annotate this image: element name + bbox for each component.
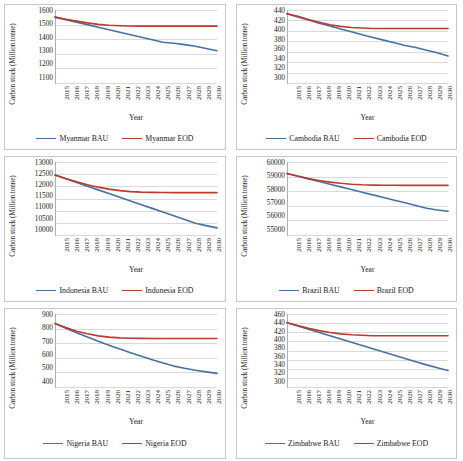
x-tick-label: 2021: [116, 85, 126, 113]
legend-label: Zimbabwe BAU: [288, 439, 340, 448]
y-tick-labels-myanmar: 160015001400130012001100: [19, 10, 53, 84]
legend-brazil: Brazil BAUBrazil EOD: [237, 286, 456, 295]
chart-frame-indonesia: Carbon stock (Million tonne)130001250012…: [4, 156, 226, 302]
x-tick-label: 2022: [126, 389, 136, 417]
legend-swatch-icon: [354, 138, 374, 140]
legend-item-zimbabwe-bau[interactable]: Zimbabwe BAU: [265, 439, 340, 448]
y-tick-label: 59000: [267, 172, 285, 179]
x-tick-label: 2027: [177, 85, 187, 113]
y-axis-label-text: Carbon stock (Million tonne): [9, 23, 17, 104]
legend-label: Myanmar EOD: [145, 134, 193, 143]
chart-panel-nigeria: Carbon stock (Million tonne)900800700600…: [0, 304, 232, 461]
legend-item-myanmar-bau[interactable]: Myanmar BAU: [36, 134, 108, 143]
y-tick-label: 500: [42, 364, 53, 371]
chart-frame-myanmar: Carbon stock (Million tonne)160015001400…: [4, 4, 226, 150]
x-tick-label: 2022: [357, 237, 367, 265]
x-tick-label: 2024: [146, 389, 156, 417]
x-tick-labels-myanmar: 2015201620172018201920202021202220232024…: [55, 85, 217, 113]
legend-item-indonesia-bau[interactable]: Indonesia BAU: [36, 286, 108, 295]
y-tick-label: 1400: [38, 33, 53, 40]
x-tick-label: 2022: [126, 85, 136, 113]
x-tick-label: 2029: [197, 85, 207, 113]
legend-label: Brazil BAU: [302, 286, 339, 295]
legend-item-zimbabwe-eod[interactable]: Zimbabwe EOD: [354, 439, 428, 448]
x-tick-label: 2015: [287, 237, 297, 265]
legend-item-nigeria-bau[interactable]: Nigeria BAU: [43, 439, 108, 448]
x-tick-labels-brazil: 2015201620172018201920202021202220232024…: [287, 237, 448, 265]
x-tick-label: 2026: [398, 389, 408, 417]
x-tick-label: 2016: [297, 389, 307, 417]
y-axis-label-text: Carbon stock (Million tonne): [9, 327, 17, 408]
y-tick-labels-indonesia: 13000125001200011500110001050010000: [19, 162, 53, 236]
legend-item-cambodia-eod[interactable]: Cambodia EOD: [354, 134, 427, 143]
legend-label: Indonesia EOD: [145, 286, 193, 295]
x-tick-label: 2019: [96, 85, 106, 113]
legend-zimbabwe: Zimbabwe BAUZimbabwe EOD: [237, 439, 456, 448]
legend-swatch-icon: [43, 443, 63, 445]
y-tick-label: 700: [42, 337, 53, 344]
chart-frame-nigeria: Carbon stock (Million tonne)900800700600…: [4, 308, 226, 459]
x-tick-label: 2022: [126, 237, 136, 265]
x-tick-label-text: 2030: [215, 86, 222, 100]
y-axis-label-myanmar: Carbon stock (Million tonne): [6, 5, 20, 123]
legend-myanmar: Myanmar BAUMyanmar EOD: [5, 134, 225, 143]
x-tick-label: 2015: [287, 389, 297, 417]
x-tick-labels-nigeria: 2015201620172018201920202021202220232024…: [55, 389, 217, 417]
x-axis-label-nigeria: Year: [55, 417, 217, 426]
legend-item-nigeria-eod[interactable]: Nigeria EOD: [122, 439, 186, 448]
legend-label: Nigeria BAU: [66, 439, 108, 448]
chart-panel-cambodia: Carbon stock (Million tonne)440420400380…: [232, 0, 463, 152]
legend-item-brazil-eod[interactable]: Brazil EOD: [354, 286, 414, 295]
x-tick-label: 2028: [418, 85, 428, 113]
x-tick-label: 2029: [428, 85, 438, 113]
x-tick-label: 2020: [337, 85, 347, 113]
x-tick-label: 2022: [357, 85, 367, 113]
x-tick-labels-zimbabwe: 2015201620172018201920202021202220232024…: [287, 389, 448, 417]
x-axis-label-cambodia: Year: [287, 113, 448, 122]
x-tick-label: 2019: [96, 237, 106, 265]
y-tick-label: 1600: [38, 7, 53, 14]
chart-panel-indonesia: Carbon stock (Million tonne)130001250012…: [0, 152, 232, 304]
x-tick-label: 2017: [75, 389, 85, 417]
legend-item-indonesia-eod[interactable]: Indonesia EOD: [122, 286, 193, 295]
series-canvas-cambodia: [287, 10, 448, 84]
x-tick-label: 2026: [166, 389, 176, 417]
chart-panel-zimbabwe: Carbon stock (Million tonne)460440420400…: [232, 304, 463, 461]
legend-label: Cambodia BAU: [289, 134, 339, 143]
legend-item-myanmar-eod[interactable]: Myanmar EOD: [122, 134, 193, 143]
x-tick-label-text: 2030: [215, 390, 222, 404]
y-tick-label: 320: [274, 369, 285, 376]
x-tick-label: 2030: [438, 85, 448, 113]
x-tick-label: 2018: [317, 237, 327, 265]
legend-label: Brazil EOD: [377, 286, 414, 295]
series-canvas-indonesia: [55, 162, 217, 236]
series-line-nigeria-eod: [55, 324, 217, 339]
x-tick-label-text: 2030: [446, 390, 453, 404]
y-axis-label-cambodia: Carbon stock (Million tonne): [238, 5, 252, 123]
chart-frame-zimbabwe: Carbon stock (Million tonne)460440420400…: [236, 308, 457, 459]
y-tick-label: 320: [274, 64, 285, 71]
x-tick-label: 2030: [438, 389, 448, 417]
y-tick-label: 55000: [267, 225, 285, 232]
legend-item-brazil-bau[interactable]: Brazil BAU: [279, 286, 339, 295]
x-tick-label: 2030: [207, 237, 217, 265]
x-tick-label: 2026: [398, 237, 408, 265]
x-tick-labels-cambodia: 2015201620172018201920202021202220232024…: [287, 85, 448, 113]
x-tick-label: 2019: [96, 389, 106, 417]
legend-item-cambodia-bau[interactable]: Cambodia BAU: [266, 134, 339, 143]
x-tick-label: 2025: [156, 237, 166, 265]
x-tick-label: 2017: [307, 237, 317, 265]
x-tick-label: 2024: [146, 237, 156, 265]
legend-label: Cambodia EOD: [377, 134, 427, 143]
x-tick-label: 2019: [327, 85, 337, 113]
plot-area-myanmar: [55, 10, 217, 84]
y-tick-label: 1100: [39, 73, 53, 80]
x-tick-label: 2024: [146, 85, 156, 113]
x-tick-label: 2029: [428, 237, 438, 265]
x-tick-label: 2023: [136, 389, 146, 417]
x-tick-label: 2026: [166, 237, 176, 265]
y-tick-label: 300: [274, 377, 285, 384]
x-tick-label: 2020: [106, 85, 116, 113]
x-axis-label-brazil: Year: [287, 265, 448, 274]
y-tick-label: 800: [42, 324, 53, 331]
